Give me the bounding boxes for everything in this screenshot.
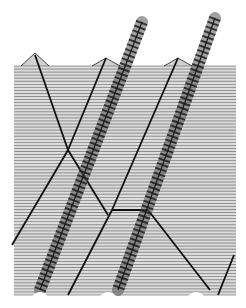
soliton-waterfall-figure — [0, 0, 246, 308]
waterfall-plot — [0, 0, 246, 308]
